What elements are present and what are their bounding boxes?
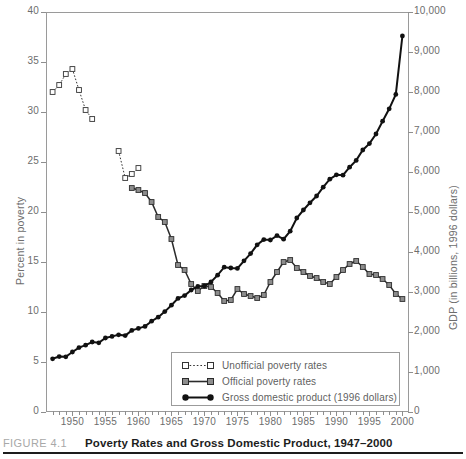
figure-number: FIGURE 4.1	[3, 437, 85, 449]
data-point	[176, 263, 181, 268]
legend-key-unofficial-icon	[181, 360, 215, 371]
data-point	[281, 237, 286, 242]
figure-title: Poverty Rates and Gross Domestic Product…	[85, 437, 392, 449]
data-point	[149, 319, 154, 324]
data-point	[242, 292, 247, 297]
series-gross	[50, 34, 405, 362]
data-point	[255, 242, 260, 247]
data-point	[387, 283, 392, 288]
data-point	[288, 229, 293, 234]
data-point	[136, 326, 141, 331]
data-point	[327, 282, 332, 287]
series-official	[129, 186, 404, 304]
data-point	[162, 220, 167, 225]
data-point	[169, 303, 174, 308]
data-point	[380, 119, 385, 124]
y-tick-label-left: 40	[0, 5, 39, 16]
data-point	[50, 90, 55, 95]
data-point	[116, 149, 121, 154]
caption-rule	[3, 452, 463, 454]
data-point	[50, 356, 55, 361]
data-point	[83, 108, 88, 113]
data-point	[96, 340, 101, 345]
data-point	[182, 293, 187, 298]
data-point	[83, 343, 88, 348]
data-point	[367, 141, 372, 146]
data-point	[387, 106, 392, 111]
data-point	[162, 309, 167, 314]
data-point	[314, 276, 319, 281]
data-point	[314, 194, 319, 199]
data-point	[360, 265, 365, 270]
data-point	[169, 237, 174, 242]
data-point	[215, 273, 220, 278]
data-point	[275, 270, 280, 275]
data-point	[341, 173, 346, 178]
data-point	[57, 354, 62, 359]
data-point	[288, 258, 293, 263]
legend-item-unofficial: Unofficial poverty rates	[181, 358, 391, 373]
data-point	[202, 284, 207, 289]
legend-item-gdp: Gross domestic product (1996 dollars)	[181, 390, 391, 405]
data-point	[400, 34, 405, 39]
data-point	[110, 334, 115, 339]
series-line	[53, 36, 403, 359]
data-point	[143, 191, 148, 196]
data-point	[347, 165, 352, 170]
data-point	[354, 158, 359, 163]
data-point	[248, 294, 253, 299]
y-tick-label-right: 6,000	[414, 165, 462, 176]
data-point	[294, 266, 299, 271]
x-tick-label: 2000	[382, 416, 422, 427]
y-tick-label-right: 10,000	[414, 5, 462, 16]
data-point	[136, 188, 141, 193]
data-point	[268, 238, 273, 243]
legend-key-official-icon	[181, 376, 215, 387]
y-tick-label-left: 30	[0, 105, 39, 116]
data-point	[149, 200, 154, 205]
data-point	[222, 265, 227, 270]
y-axis-right-title: GDP (in billions, 1996 dollars)	[447, 185, 459, 330]
data-point	[189, 288, 194, 293]
data-point	[156, 315, 161, 320]
legend-key-gdp-icon	[181, 392, 215, 403]
data-point	[136, 166, 141, 171]
data-point	[90, 117, 95, 122]
chart-plot-area: 0510152025303540 01,0002,0003,0004,0005,…	[46, 12, 409, 412]
legend-label-gdp: Gross domestic product (1996 dollars)	[222, 392, 397, 403]
data-point	[228, 266, 233, 271]
series-unofficial	[116, 149, 141, 181]
data-point	[129, 186, 134, 191]
data-point	[301, 270, 306, 275]
data-point	[209, 285, 214, 290]
y-tick-label-left: 10	[0, 305, 39, 316]
data-point	[156, 215, 161, 220]
data-point	[374, 273, 379, 278]
data-point	[393, 92, 398, 97]
data-point	[90, 340, 95, 345]
data-point	[228, 298, 233, 303]
data-point	[400, 297, 405, 302]
y-tick-label-right: 1,000	[414, 365, 462, 376]
data-point	[235, 266, 240, 271]
data-point	[275, 233, 280, 238]
y-tick-left	[41, 412, 46, 413]
data-point	[103, 336, 108, 341]
series-line	[132, 188, 403, 301]
data-point	[341, 268, 346, 273]
data-point	[334, 172, 339, 177]
data-point	[70, 350, 75, 355]
figure-container: 0510152025303540 01,0002,0003,0004,0005,…	[0, 0, 466, 459]
data-point	[327, 177, 332, 182]
data-point	[268, 280, 273, 285]
data-point	[261, 237, 266, 242]
data-point	[380, 277, 385, 282]
data-point	[222, 299, 227, 304]
data-point	[63, 72, 68, 77]
legend-label-official: Official poverty rates	[222, 376, 316, 387]
data-point	[189, 282, 194, 287]
data-point	[129, 328, 134, 333]
data-point	[77, 345, 82, 350]
data-point	[195, 284, 200, 289]
data-point	[182, 268, 187, 273]
